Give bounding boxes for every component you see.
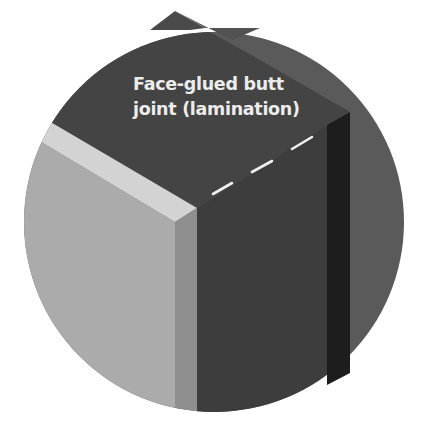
- dark-board-edge-strip: [327, 112, 350, 385]
- label-line-2: joint (lamination): [132, 99, 300, 119]
- light-board-side-face: [175, 208, 197, 439]
- joint-diagram: Face-glued butt joint (lamination): [0, 0, 431, 439]
- label-line-1: Face-glued butt: [133, 74, 284, 94]
